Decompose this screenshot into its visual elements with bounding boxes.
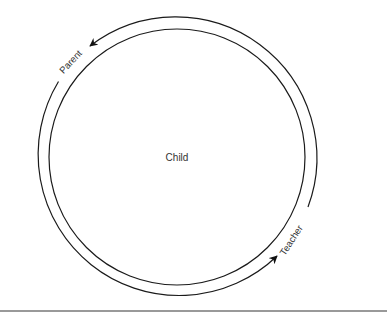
outer-arc-teacher-to-parent — [90, 17, 317, 207]
outer-arc-parent-to-teacher — [38, 82, 277, 296]
cycle-diagram: Child Parent Teacher — [0, 0, 387, 317]
center-label-child: Child — [166, 152, 189, 163]
arc-label-teacher: Teacher — [277, 223, 305, 257]
arc-label-parent: Parent — [57, 47, 84, 75]
